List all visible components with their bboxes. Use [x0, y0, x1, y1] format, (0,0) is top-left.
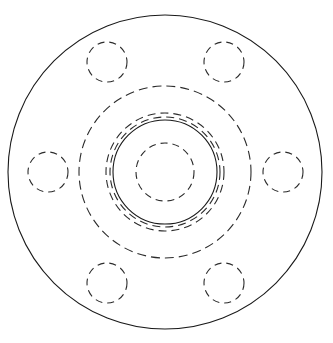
technical-drawing-canvas: [0, 0, 333, 343]
bolt-hole-bottom-right: [204, 263, 244, 303]
hub-mid-ring-circle: [110, 117, 220, 227]
hub-inner-ring-circle: [113, 120, 217, 224]
outer-flange-edge-circle: [8, 15, 322, 329]
bolt-circle-guideline-circle: [79, 86, 251, 258]
bolt-hole-top-right: [204, 42, 244, 82]
bolt-hole-bottom-left: [87, 263, 127, 303]
center-bore-circle: [136, 143, 194, 201]
flange-front-view-drawing: [0, 0, 333, 343]
bolt-hole-right: [263, 152, 303, 192]
hub-outer-ring-circle: [106, 113, 224, 231]
bolt-hole-top-left: [87, 42, 127, 82]
bolt-hole-left: [28, 152, 68, 192]
bolt-hole-group: [28, 42, 303, 303]
